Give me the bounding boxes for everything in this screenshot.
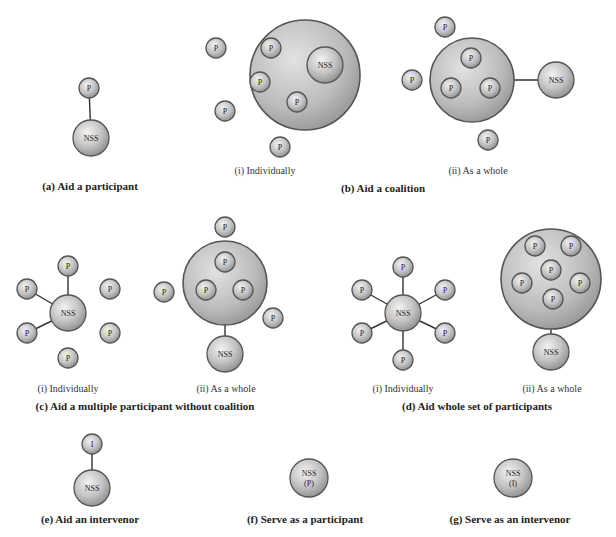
node-label: NSS [84, 134, 99, 143]
node-label: P [443, 23, 448, 32]
participant-node: P [478, 130, 498, 150]
participant-node: P [352, 323, 372, 343]
participant-node: P [441, 78, 461, 98]
node-label: P [214, 44, 219, 53]
participant-node: P [435, 17, 455, 37]
node-label: P [271, 314, 276, 323]
participant-node: P [154, 282, 174, 302]
node-label: P [258, 78, 263, 87]
node-label: P [443, 286, 448, 295]
node-label: P [360, 329, 365, 338]
participant-node: P [287, 92, 307, 112]
participant-node: P [58, 348, 78, 368]
panel-caption: (a) Aid a participant [42, 180, 138, 192]
panel-caption: (b) Aid a coalition [341, 182, 425, 194]
participant-node: P [393, 257, 413, 277]
subpanel-caption: (ii) As a whole [522, 383, 581, 394]
node-label: P [295, 98, 300, 107]
node-label: P [25, 329, 30, 338]
nss-node: NSS [73, 120, 109, 156]
panel-caption: (d) Aid whole set of participants [402, 400, 552, 412]
nss-node: NSS [50, 295, 86, 331]
participant-node: P [461, 48, 481, 68]
node-label: P [108, 285, 113, 294]
node-label: P [533, 242, 538, 251]
participant-node: P [79, 78, 99, 98]
participant-node: P [17, 279, 37, 299]
node-label: P [401, 263, 406, 272]
participant-node: P [480, 78, 500, 98]
nss-roles-diagram: PNSSPNSSPPPPPPPPNSSPPPNSSPPPPPPPPPNSSPPP… [0, 0, 616, 537]
participant-node: P [352, 280, 372, 300]
participant-node: P [100, 323, 120, 343]
node-label: P [223, 223, 228, 232]
node-label: P [549, 266, 554, 275]
node-label: P [488, 84, 493, 93]
nss-node: NSS [307, 47, 343, 83]
node-label: P [551, 295, 556, 304]
participant-node: P [196, 280, 216, 300]
node-label: P [223, 107, 228, 116]
participant-node: P [206, 38, 226, 58]
participant-node: P [270, 137, 290, 157]
participant-node: P [17, 323, 37, 343]
nss-node: NSS(P) [290, 459, 328, 497]
nss-node: NSS [538, 62, 574, 98]
panel-caption: (g) Serve as an intervenor [450, 513, 571, 525]
node-label: P [278, 143, 283, 152]
nss-node: NSS(I) [494, 459, 532, 497]
subpanel-caption: (ii) As a whole [196, 383, 255, 394]
node-label: P [578, 279, 583, 288]
participant-node: P [58, 256, 78, 276]
node-label: P [449, 84, 454, 93]
node-label: P [25, 285, 30, 294]
node-label: P [401, 356, 406, 365]
subpanel-caption: (ii) As a whole [448, 165, 507, 176]
node-label: NSS [61, 309, 76, 318]
subpanel-caption: (i) Individually [235, 165, 296, 176]
nss-node: NSS [533, 334, 569, 370]
node-label: P [87, 84, 92, 93]
participant-node: P [215, 252, 235, 272]
nss-node: NSS [207, 336, 243, 372]
node-label: P [520, 279, 525, 288]
intervenor-node: I [82, 434, 102, 454]
subpanel-caption: (i) Individually [38, 383, 99, 394]
participant-node: P [402, 70, 422, 90]
node-label: NSS [544, 348, 559, 357]
participant-node: P [525, 236, 545, 256]
node-label: NSS [549, 76, 564, 85]
panel-caption: (e) Aid an intervenor [41, 513, 139, 525]
participant-node: P [215, 217, 235, 237]
node-label: NSS [218, 350, 233, 359]
node-label: NSS [396, 309, 411, 318]
participant-node: P [233, 280, 253, 300]
participant-node: P [250, 72, 270, 92]
node-label: P [162, 288, 167, 297]
node-label: P [569, 242, 574, 251]
nss-node: NSS [74, 470, 110, 506]
node-sublabel: (P) [304, 479, 314, 488]
participant-node: P [570, 273, 590, 293]
node-label: P [410, 76, 415, 85]
participant-node: P [512, 273, 532, 293]
participant-node: P [263, 308, 283, 328]
panel-caption: (f) Serve as a participant [247, 513, 363, 525]
subpanel-caption: (i) Individually [373, 383, 434, 394]
node-label: P [108, 329, 113, 338]
participant-node: P [100, 279, 120, 299]
node-sublabel: (I) [509, 479, 517, 488]
node-label: P [469, 54, 474, 63]
participant-node: P [435, 280, 455, 300]
node-label: P [66, 354, 71, 363]
node-label: P [223, 258, 228, 267]
participant-node: P [543, 289, 563, 309]
node-label: P [204, 286, 209, 295]
node-label: P [360, 286, 365, 295]
node-label: P [443, 329, 448, 338]
panel-caption: (c) Aid a multiple participant without c… [36, 400, 255, 412]
node-label: I [91, 440, 94, 449]
node-label: P [269, 44, 274, 53]
node-label: P [486, 136, 491, 145]
node-label: NSS [85, 484, 100, 493]
